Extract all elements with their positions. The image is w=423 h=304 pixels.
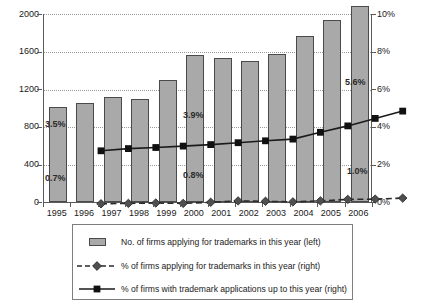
data-label-cumulative-2006: 5.6%: [345, 78, 366, 87]
left-axis-tick: [37, 52, 42, 53]
left-axis-tick-label: 800: [5, 122, 39, 131]
cumulative-line: [101, 111, 403, 151]
x-axis-label-2002: 2002: [235, 208, 262, 218]
x-axis-tick: [180, 203, 181, 207]
solid-square-line-icon: [73, 280, 121, 298]
x-axis-tick: [372, 203, 373, 207]
data-label-cumulative-2000: 3.9%: [183, 111, 204, 120]
x-axis-label-1996: 1996: [70, 208, 97, 218]
data-label-annual-2006: 1.0%: [347, 167, 368, 176]
x-axis-label-2006: 2006: [345, 208, 372, 218]
left-axis-tick-label: 1600: [5, 47, 39, 56]
x-axis-label-2001: 2001: [208, 208, 235, 218]
x-axis-tick: [345, 203, 346, 207]
legend-item-annual-series: % of firms applying for trademarks in th…: [73, 255, 354, 277]
x-axis-label-2004: 2004: [290, 208, 317, 218]
data-label-annual-2000: 0.8%: [183, 171, 204, 180]
legend-item-bar-series: No. of firms applying for trademarks in …: [73, 231, 354, 253]
right-axis-tick-label: 10%: [377, 10, 407, 19]
solid-square-glyph: [75, 283, 119, 295]
legend-item-cumulative-series: % of firms with trademark applications u…: [73, 278, 354, 300]
x-axis-tick: [290, 203, 291, 207]
x-axis-tick: [262, 203, 263, 207]
chart-figure: 2000 1600 1200 800 400 0 10% 8% 6% 4% 2%…: [0, 0, 423, 304]
plot-area: 3.5% 0.7% 3.9% 0.8% 5.6% 1.0%: [43, 14, 372, 203]
x-axis-label-2003: 2003: [262, 208, 289, 218]
left-axis-tick: [37, 14, 42, 15]
bar-swatch-icon: [73, 233, 121, 251]
left-axis-tick: [37, 127, 42, 128]
data-label-annual-1995: 0.7%: [45, 174, 66, 183]
x-axis-label-2005: 2005: [317, 208, 344, 218]
left-axis-tick: [37, 89, 42, 90]
x-axis-tick: [125, 203, 126, 207]
x-axis-label-1997: 1997: [98, 208, 125, 218]
chart-legend: No. of firms applying for trademarks in …: [72, 224, 353, 300]
data-label-cumulative-1995: 3.5%: [45, 120, 66, 129]
left-axis-tick: [37, 202, 42, 203]
legend-label-cumulative-series: % of firms with trademark applications u…: [121, 284, 347, 294]
x-axis-tick: [235, 203, 236, 207]
x-axis-label-2000: 2000: [180, 208, 207, 218]
dashed-diamond-line-icon: [73, 257, 121, 275]
x-axis-tick: [43, 203, 44, 207]
x-axis-tick: [317, 203, 318, 207]
category-axis: 1995 1996 1997 1998 1999 2000 2001 2002 …: [43, 203, 372, 221]
x-axis-tick: [98, 203, 99, 207]
series-overlay: [87, 28, 416, 217]
left-axis-tick-label: 2000: [5, 10, 39, 19]
x-axis-label-1998: 1998: [125, 208, 152, 218]
x-axis-tick: [70, 203, 71, 207]
left-axis-tick-label: 400: [5, 160, 39, 169]
legend-label-bar-series: No. of firms applying for trademarks in …: [121, 237, 321, 247]
left-value-axis: 2000 1600 1200 800 400 0: [0, 0, 39, 304]
legend-label-annual-series: % of firms applying for trademarks in th…: [121, 261, 320, 271]
x-axis-tick: [208, 203, 209, 207]
x-axis-label-1999: 1999: [153, 208, 180, 218]
dashed-diamond-glyph: [75, 260, 119, 272]
left-axis-tick-label: 1200: [5, 85, 39, 94]
x-axis-label-1995: 1995: [43, 208, 70, 218]
left-axis-tick-label: 0: [5, 198, 39, 207]
left-axis-tick: [37, 165, 42, 166]
x-axis-tick: [153, 203, 154, 207]
gridline: [44, 14, 371, 15]
